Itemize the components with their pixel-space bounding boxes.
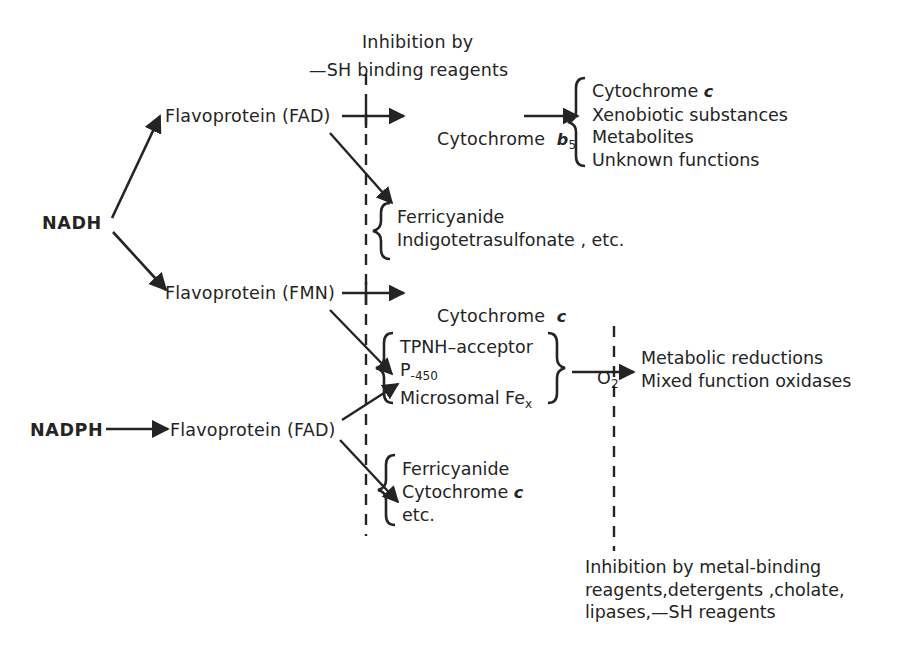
node-nadph: NADPH [30, 419, 103, 442]
node-flavoprotein-fad-bottom: Flavoprotein (FAD) [170, 419, 336, 442]
node-flavoprotein-fmn: Flavoprotein (FMN) [165, 282, 335, 305]
note-line: reagents,detergents ,cholate, [585, 579, 844, 602]
node-nadh: NADH [42, 212, 102, 235]
arrow-nadh-to-fad [112, 116, 160, 218]
brace-p450-open [376, 333, 393, 403]
list-item: Ferricyanide [402, 458, 523, 481]
pathway-diagram: Inhibition by —SH binding reagents NADH … [0, 0, 902, 649]
list-item: Metabolites [592, 126, 788, 149]
oxygen-subscript: 2 [611, 377, 619, 391]
cytochrome-b5-word: Cytochrome [437, 129, 545, 149]
cytochrome-b5-italic: b [557, 130, 569, 149]
sh-note-line2: —SH binding reagents [309, 59, 508, 82]
list-item: Microsomal Fex [400, 387, 533, 416]
arrow-fad-to-ferricyanide [330, 133, 392, 203]
cytochrome-c-italic: c [557, 307, 567, 326]
node-flavoprotein-fad-top: Flavoprotein (FAD) [165, 105, 331, 128]
list-item: Unknown functions [592, 149, 788, 172]
list-item: P-450 [400, 359, 533, 388]
list-item: Cytochrome c [402, 481, 523, 505]
label-oxygen: O2 [574, 344, 619, 416]
note-metal-binding: Inhibition by metal-binding reagents,det… [585, 556, 844, 624]
arrow-fadbottom-to-acceptors [340, 440, 398, 502]
cytochrome-c-word: Cytochrome [437, 306, 545, 326]
arrow-nadh-to-fmn [113, 232, 166, 290]
italic-c: c [704, 82, 713, 101]
group-p450-system: TPNH–acceptor P-450 Microsomal Fex [400, 336, 533, 416]
list-item: Xenobiotic substances [592, 104, 788, 127]
p450-subscript: -450 [411, 369, 438, 383]
list-item: Cytochrome c [592, 80, 788, 104]
list-item: Metabolic reductions [641, 347, 852, 370]
list-item: Ferricyanide [397, 206, 624, 229]
cytochrome-b5-subscript: 5 [568, 138, 576, 152]
group-outcomes: Metabolic reductions Mixed function oxid… [641, 347, 852, 392]
sh-note-line1: Inhibition by [362, 31, 473, 54]
node-cytochrome-b5: Cytochrome b5 [414, 105, 576, 177]
list-item: etc. [402, 504, 523, 527]
list-item: TPNH–acceptor [400, 336, 533, 359]
list-item: Indigotetrasulfonate , etc. [397, 229, 624, 252]
fex-subscript: x [525, 397, 532, 411]
note-line: Inhibition by metal-binding [585, 556, 844, 579]
note-line: lipases,—SH reagents [585, 601, 844, 624]
list-item: Mixed function oxidases [641, 370, 852, 393]
group-fad-bottom-acceptors: Ferricyanide Cytochrome c etc. [402, 458, 523, 527]
group-fad-top-acceptors: Ferricyanide Indigotetrasulfonate , etc. [397, 206, 624, 251]
group-b5-acceptors: Cytochrome c Xenobiotic substances Metab… [592, 80, 788, 171]
italic-c: c [514, 483, 523, 502]
brace-fad-top-acceptors [373, 203, 390, 259]
